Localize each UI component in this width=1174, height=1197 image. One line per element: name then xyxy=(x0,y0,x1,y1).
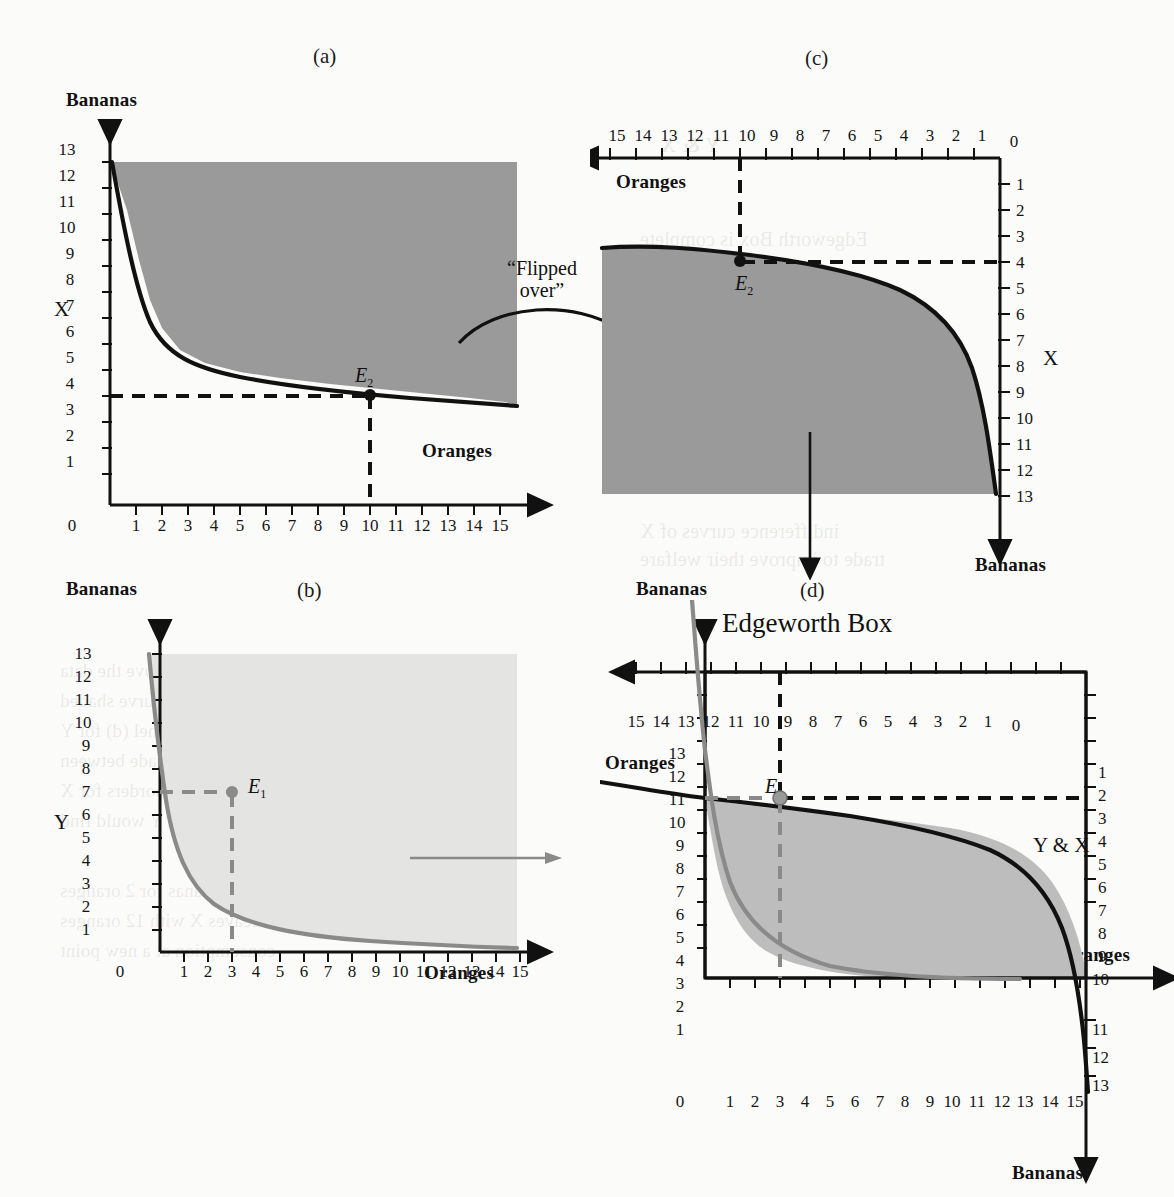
panel-c-shaded-region xyxy=(602,247,996,494)
panel-c-plot xyxy=(590,110,1090,580)
panel-a-point-label: E2 xyxy=(355,364,373,391)
panel-a-label: (a) xyxy=(313,44,336,69)
panel-b-point-e1 xyxy=(226,786,238,798)
panel-d-y-axis-label: Bananas xyxy=(636,578,707,600)
panel-d-point-label: E xyxy=(765,775,777,802)
panel-b-plot xyxy=(50,600,570,1020)
panel-b-y-axis-label: Bananas xyxy=(66,578,137,600)
panel-c-point-label: E2 xyxy=(735,272,753,299)
panel-c-point-e2 xyxy=(734,255,746,267)
panel-b-to-d-arrowhead-icon xyxy=(545,852,562,864)
panel-b-shaded-region xyxy=(149,654,517,948)
panel-c-label: (c) xyxy=(805,46,828,71)
panel-b-point-label: E1 xyxy=(248,775,266,802)
figure-canvas: Y & X Edgeworth Box is complete the box … xyxy=(0,0,1174,1197)
